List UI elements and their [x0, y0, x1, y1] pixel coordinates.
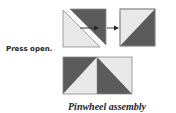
step-label: Press open. — [6, 45, 52, 53]
pinwheel-row-figure — [63, 57, 132, 94]
half-square-triangle-figure — [120, 9, 155, 46]
pinwheel-diagram — [0, 0, 176, 113]
arrow-right-icon — [107, 26, 119, 31]
diagram-caption: Pinwheel assembly — [68, 101, 146, 112]
cut-square-figure — [63, 9, 106, 47]
